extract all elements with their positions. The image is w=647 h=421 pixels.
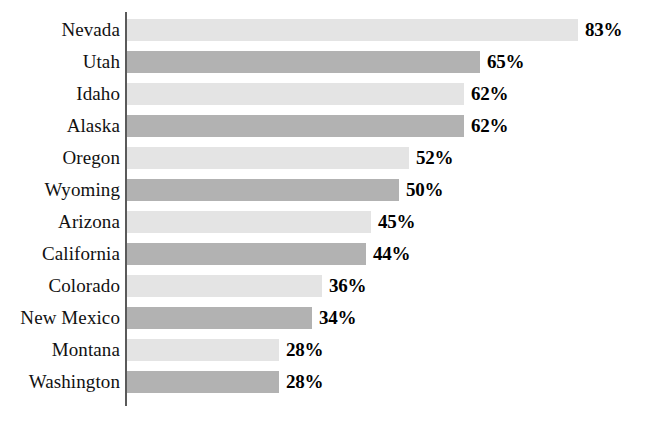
bar-category-label: Washington [0, 366, 120, 398]
bar-category-label: Arizona [0, 206, 120, 238]
bar-value-label: 62% [471, 110, 508, 142]
bar-category-label: California [0, 238, 120, 270]
bar [127, 211, 371, 233]
bar-category-label: Alaska [0, 110, 120, 142]
bar [127, 179, 399, 201]
bar-row: Washington28% [0, 366, 647, 398]
bar-value-label: 45% [378, 206, 415, 238]
bar [127, 19, 578, 41]
bar-row: Colorado36% [0, 270, 647, 302]
bar-category-label: Montana [0, 334, 120, 366]
bar-value-label: 83% [585, 14, 622, 46]
bar [127, 371, 279, 393]
bar-category-label: Colorado [0, 270, 120, 302]
bar-fill [127, 147, 409, 169]
bar-fill [127, 115, 464, 137]
bar-row: New Mexico34% [0, 302, 647, 334]
bar [127, 51, 480, 73]
bar-value-label: 28% [286, 334, 323, 366]
bar-value-label: 52% [416, 142, 453, 174]
bar-value-label: 62% [471, 78, 508, 110]
bar-value-label: 36% [329, 270, 366, 302]
bar-fill [127, 51, 480, 73]
bar-fill [127, 275, 322, 297]
bar-category-label: Oregon [0, 142, 120, 174]
bar-fill [127, 19, 578, 41]
bar-fill [127, 83, 464, 105]
bar-fill [127, 211, 371, 233]
bar [127, 83, 464, 105]
bar-fill [127, 339, 279, 361]
bar-chart: Nevada83%Utah65%Idaho62%Alaska62%Oregon5… [0, 0, 647, 421]
bar-row: Alaska62% [0, 110, 647, 142]
bar-category-label: Utah [0, 46, 120, 78]
bar-row: Nevada83% [0, 14, 647, 46]
bar-row: Idaho62% [0, 78, 647, 110]
bar-value-label: 34% [319, 302, 356, 334]
plot-area: Nevada83%Utah65%Idaho62%Alaska62%Oregon5… [0, 0, 647, 421]
bar-fill [127, 243, 366, 265]
bar-row: Wyoming50% [0, 174, 647, 206]
bar [127, 275, 322, 297]
bar-value-label: 44% [373, 238, 410, 270]
bar-fill [127, 307, 312, 329]
bar [127, 307, 312, 329]
bar-category-label: Wyoming [0, 174, 120, 206]
bar-row: Montana28% [0, 334, 647, 366]
bar-value-label: 50% [406, 174, 443, 206]
bar-category-label: Idaho [0, 78, 120, 110]
bar-fill [127, 371, 279, 393]
bar [127, 115, 464, 137]
bar-fill [127, 179, 399, 201]
bar-row: Utah65% [0, 46, 647, 78]
bar-category-label: New Mexico [0, 302, 120, 334]
bar-row: Oregon52% [0, 142, 647, 174]
bar-row: California44% [0, 238, 647, 270]
bar-row: Arizona45% [0, 206, 647, 238]
bar [127, 243, 366, 265]
bar [127, 147, 409, 169]
bar-value-label: 65% [487, 46, 524, 78]
bar-category-label: Nevada [0, 14, 120, 46]
bar [127, 339, 279, 361]
bar-value-label: 28% [286, 366, 323, 398]
